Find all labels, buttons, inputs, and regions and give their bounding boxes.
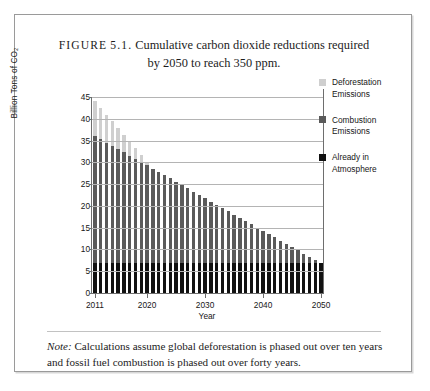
y-axis-tick-mark — [89, 271, 93, 272]
bar-segment — [99, 263, 103, 293]
bar-segment — [261, 263, 265, 293]
bar-segment — [105, 143, 109, 263]
bar — [227, 211, 231, 293]
bar — [105, 115, 109, 293]
y-axis-tick-mark — [89, 184, 93, 185]
bar — [314, 260, 318, 293]
bar-segment — [238, 218, 242, 263]
bar-segment — [192, 263, 196, 293]
bar-segment — [290, 263, 294, 293]
bar-segment — [273, 263, 277, 293]
bar-segment — [93, 263, 97, 293]
bar-segment — [186, 188, 190, 262]
bar-segment — [203, 198, 207, 262]
bar-segment — [279, 241, 283, 263]
y-axis-label: Billion Tons of CO₂ — [9, 3, 19, 163]
legend-swatch-already-in-atmosphere-icon — [319, 154, 326, 161]
bar — [111, 121, 115, 293]
x-axis-tick-mark — [205, 293, 206, 298]
bar-segment — [163, 263, 167, 293]
bar-segment — [111, 121, 115, 145]
bar-segment — [227, 263, 231, 293]
y-axis-tick-mark — [89, 162, 93, 163]
bar-segment — [116, 263, 120, 293]
bar — [238, 218, 242, 293]
x-axis-tick-mark — [263, 293, 264, 298]
figure-note: Note: Calculations assume global defores… — [47, 339, 383, 371]
bar-segment — [169, 263, 173, 293]
bar-segment — [215, 205, 219, 263]
figure-caption-line1: Cumulative carbon dioxide reductions req… — [135, 38, 369, 52]
bar-segment — [128, 156, 132, 263]
bar-segment — [232, 215, 236, 263]
bar — [256, 228, 260, 293]
gridline — [92, 119, 324, 120]
y-axis-tick-label: 15 — [30, 223, 90, 233]
bar-segment — [296, 250, 300, 262]
bar — [93, 101, 97, 293]
gridline — [92, 141, 324, 142]
bar-segment — [105, 263, 109, 293]
bar — [163, 175, 167, 293]
bar-segment — [186, 263, 190, 293]
bar-segment — [122, 135, 126, 152]
bar-segment — [209, 263, 213, 293]
bar-segment — [256, 228, 260, 263]
x-axis-tick-mark — [95, 293, 96, 298]
bar-segment — [285, 263, 289, 293]
figure-caption: FIGURE 5.1. Cumulative carbon dioxide re… — [15, 37, 413, 73]
y-axis-tick-label: 20 — [30, 201, 90, 211]
bar-segment — [140, 155, 144, 162]
gridline — [92, 228, 324, 229]
bar-segment — [116, 128, 120, 149]
bar-segment — [308, 263, 312, 293]
figure-label: FIGURE — [59, 39, 107, 52]
y-axis-tick-mark — [89, 293, 93, 294]
y-axis-tick-label: 25 — [30, 179, 90, 189]
bar-segment — [221, 263, 225, 293]
bar-segment — [140, 263, 144, 293]
gridline — [92, 162, 324, 163]
note-divider — [47, 331, 381, 332]
bar — [261, 231, 265, 293]
bar — [221, 208, 225, 293]
legend-item: Combustion Emissions — [319, 115, 411, 139]
bar-segment — [232, 263, 236, 293]
bar-segment — [180, 263, 184, 293]
bar-segment — [134, 263, 138, 293]
y-axis-tick-mark — [89, 119, 93, 120]
bar — [273, 237, 277, 293]
legend-swatch-deforestation-icon — [319, 79, 326, 86]
bar — [151, 169, 155, 293]
bar — [99, 108, 103, 293]
x-axis-tick-label: 2011 — [86, 300, 104, 310]
legend-item-label: Combustion Emissions — [332, 115, 376, 137]
gridline — [92, 271, 324, 272]
bar-segment — [267, 234, 271, 262]
legend-swatch-combustion-icon — [319, 116, 326, 123]
y-axis-tick-label: 45 — [30, 92, 90, 102]
bar-segment — [145, 263, 149, 293]
bar-segment — [267, 263, 271, 293]
bar-segment — [122, 152, 126, 262]
bar — [302, 254, 306, 293]
bar — [244, 221, 248, 293]
y-axis-tick-mark — [89, 228, 93, 229]
y-axis-tick-label: 30 — [30, 157, 90, 167]
bar-segment — [134, 159, 138, 263]
y-axis-tick-label: 40 — [30, 114, 90, 124]
bar — [122, 135, 126, 293]
bar-segment — [157, 263, 161, 293]
gridline — [92, 206, 324, 207]
x-axis-tick-label: 2040 — [254, 300, 272, 310]
y-axis-tick-label: 0 — [30, 288, 90, 298]
y-axis-tick-mark — [89, 97, 93, 98]
bar-segment — [279, 263, 283, 293]
x-axis-tick-label: 2020 — [138, 300, 156, 310]
bar-segment — [93, 136, 97, 262]
x-axis-tick-mark — [321, 293, 322, 298]
bar-segment — [99, 139, 103, 262]
y-axis-tick-label: 10 — [30, 244, 90, 254]
bar-segment — [145, 165, 149, 262]
bar-segment — [209, 202, 213, 263]
